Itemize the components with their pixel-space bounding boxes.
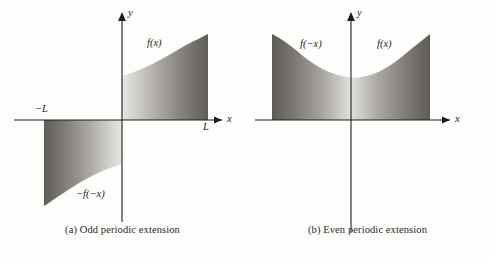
y-axis-arrow-icon: [347, 12, 355, 21]
figure-container: y x −L L f(x) −f(−x) (a) Odd periodic ex…: [0, 0, 490, 259]
curve-label-neg-f-of-neg-x: −f(−x): [76, 188, 105, 199]
y-axis-label: y: [128, 7, 133, 18]
curve-label-f-of-x: f(x): [147, 37, 162, 48]
caption-panel-a: (a) Odd periodic extension: [0, 224, 245, 235]
area-f-of-x-positive: [122, 34, 208, 120]
x-axis-arrow-icon: [442, 117, 450, 124]
x-tick-label-minus-L: −L: [35, 103, 48, 114]
x-axis-label: x: [227, 113, 232, 124]
x-axis-arrow-icon: [214, 117, 222, 124]
curve-label-f-of-neg-x: f(−x): [300, 38, 322, 49]
y-axis-label: y: [357, 7, 362, 18]
caption-panel-b: (b) Even periodic extension: [245, 224, 490, 235]
y-axis-arrow-icon: [118, 12, 126, 21]
panel-odd-periodic-extension: y x −L L f(x) −f(−x) (a) Odd periodic ex…: [0, 0, 245, 259]
panel-even-periodic-extension: y x f(−x) f(x) (b) Even periodic extensi…: [245, 0, 490, 259]
curve-label-f-of-x: f(x): [377, 38, 392, 49]
plot-even-periodic-extension: [245, 0, 490, 259]
x-tick-label-L: L: [203, 121, 209, 132]
x-axis-label: x: [455, 113, 460, 124]
